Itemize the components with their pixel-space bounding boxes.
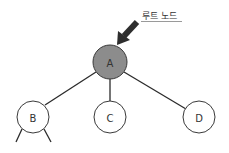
tree-diagram: 루트 노드 A B C D: [0, 0, 229, 153]
edge-a-d: [124, 72, 186, 109]
root-pointer-arrow-icon: [117, 22, 137, 45]
node-a: A: [93, 45, 127, 79]
edge-b-left-child: [16, 129, 22, 142]
node-d: D: [183, 101, 215, 133]
node-c: C: [94, 101, 126, 133]
node-c-label: C: [107, 113, 114, 124]
root-node-label: 루트 노드: [142, 11, 177, 21]
node-a-label: A: [107, 58, 114, 69]
node-b-label: B: [30, 113, 37, 124]
node-d-label: D: [195, 113, 203, 124]
edge-a-b: [45, 72, 96, 105]
node-b: B: [17, 101, 49, 133]
edge-b-right-child: [44, 129, 51, 142]
